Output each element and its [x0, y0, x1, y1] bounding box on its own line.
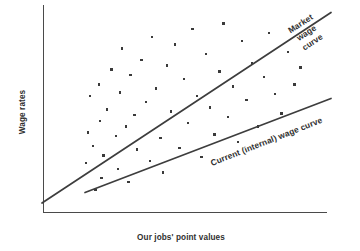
scatter-point: [166, 64, 168, 66]
scatter-point: [191, 28, 193, 30]
scatter-point: [213, 133, 215, 135]
market-wage-curve-line: [42, 13, 331, 204]
scatter-point: [280, 112, 282, 114]
scatter-point: [99, 120, 101, 122]
scatter-point: [119, 91, 121, 93]
scatter-point: [196, 95, 198, 97]
scatter-point: [85, 162, 87, 164]
scatter-point: [87, 131, 89, 133]
scatter-point: [187, 122, 189, 124]
scatter-point: [145, 101, 147, 103]
scatter-point: [127, 181, 129, 183]
current-wage-curve-line: [85, 99, 331, 193]
scatter-point: [149, 160, 151, 162]
scatter-point: [89, 95, 91, 97]
scatter-point: [155, 87, 157, 89]
scatter-point: [159, 137, 161, 139]
scatter-point: [183, 78, 185, 80]
market-wage-curve-label: Market wage curve: [286, 12, 327, 54]
scatter-point: [274, 93, 276, 95]
scatter-point: [151, 36, 153, 38]
scatter-point: [98, 83, 100, 85]
trend-lines-layer: [42, 13, 331, 204]
scatter-point: [174, 43, 176, 45]
scatter-point: [170, 110, 172, 112]
scatter-point: [129, 74, 131, 76]
scatter-point: [140, 59, 142, 61]
scatter-point: [209, 106, 211, 108]
scatter-point: [117, 168, 119, 170]
scatter-point: [227, 116, 229, 118]
scatter-point: [100, 177, 102, 179]
scatter-point: [200, 156, 202, 158]
scatter-point: [232, 85, 234, 87]
chart-canvas: Market wage curve Current (internal) wag…: [0, 0, 360, 251]
scatter-point: [299, 66, 301, 68]
scatter-points-layer: [85, 22, 302, 191]
scatter-point: [237, 141, 239, 143]
scatter-point: [218, 70, 220, 72]
scatter-point: [102, 154, 104, 156]
x-axis-title: Our jobs' point values: [137, 233, 225, 242]
y-axis-title: Wage rates: [18, 89, 27, 134]
scatter-point: [162, 171, 164, 173]
scatter-point: [205, 53, 207, 55]
scatter-point: [125, 125, 127, 127]
scatter-point: [136, 148, 138, 150]
scatter-point: [178, 147, 180, 149]
scatter-point: [92, 145, 94, 147]
scatter-point: [110, 68, 112, 70]
scatter-point: [263, 76, 265, 78]
scatter-point: [222, 22, 224, 24]
scatter-point: [106, 108, 108, 110]
scatter-point: [121, 47, 123, 49]
scatter-point: [268, 32, 270, 34]
scatter-point: [287, 51, 289, 53]
scatter-point: [241, 40, 243, 42]
wage-curve-chart: Market wage curve Current (internal) wag…: [0, 0, 360, 251]
scatter-point: [245, 99, 247, 101]
scatter-point: [115, 135, 117, 137]
scatter-point: [133, 114, 135, 116]
scatter-point: [293, 83, 295, 85]
